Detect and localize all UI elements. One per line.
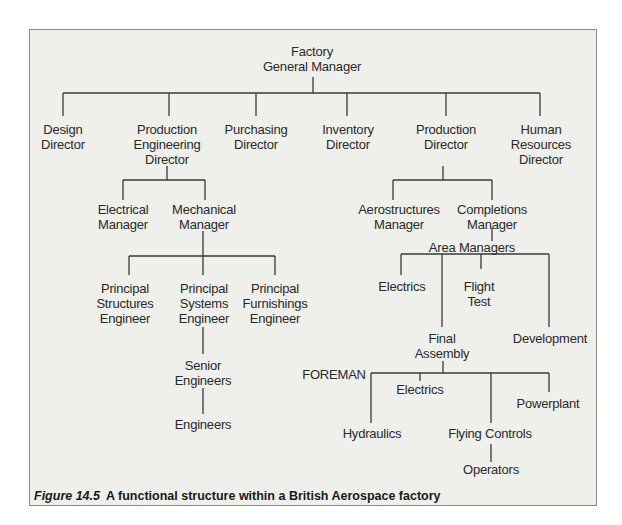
node-inventory-director: Inventory Director <box>322 122 374 152</box>
node-line: Furnishings <box>243 296 308 311</box>
node-line: Director <box>322 137 374 152</box>
node-line: Human <box>511 122 571 137</box>
node-mechanical-manager: Mechanical Manager <box>172 202 236 232</box>
node-principal-systems-engineer: Principal Systems Engineer <box>179 281 229 326</box>
node-hydraulics: Hydraulics <box>343 426 402 441</box>
node-production-engineering-director: Production Engineering Director <box>133 122 200 167</box>
org-chart-connectors <box>0 0 622 525</box>
node-line: Purchasing <box>224 122 287 137</box>
node-final-assembly: Final Assembly <box>415 331 470 361</box>
node-aerostructures-manager: Aerostructures Manager <box>358 202 440 232</box>
node-principal-furnishings-engineer: Principal Furnishings Engineer <box>243 281 308 326</box>
node-line: Director <box>224 137 287 152</box>
node-line: Engineering <box>133 137 200 152</box>
node-line: Flying Controls <box>448 426 532 441</box>
node-development: Development <box>513 331 587 346</box>
figure-number: Figure 14.5 <box>34 489 100 503</box>
node-electrics-area: Electrics <box>378 279 425 294</box>
node-line: Development <box>513 331 587 346</box>
node-line: Flight <box>464 279 495 294</box>
node-line: Engineer <box>179 311 229 326</box>
node-line: Hydraulics <box>343 426 402 441</box>
node-line: Operators <box>463 462 519 477</box>
node-purchasing-director: Purchasing Director <box>224 122 287 152</box>
node-line: Aerostructures <box>358 202 440 217</box>
node-line: Final <box>415 331 470 346</box>
node-line: Powerplant <box>516 396 579 411</box>
node-line: Senior <box>175 358 232 373</box>
node-completions-manager: Completions Manager <box>457 202 527 232</box>
node-engineers: Engineers <box>175 417 232 432</box>
node-line: Principal <box>179 281 229 296</box>
node-line: Mechanical <box>172 202 236 217</box>
node-line: Factory <box>263 44 361 59</box>
node-line: Electrical <box>98 202 149 217</box>
node-line: Manager <box>358 217 440 232</box>
node-line: Production <box>416 122 476 137</box>
node-line: Engineers <box>175 417 232 432</box>
node-line: Design <box>41 122 85 137</box>
figure-title: A functional structure within a British … <box>106 489 441 503</box>
node-line: Manager <box>98 217 149 232</box>
node-line: Resources <box>511 137 571 152</box>
node-line: Director <box>511 152 571 167</box>
figure-caption: Figure 14.5A functional structure within… <box>34 489 441 503</box>
node-electrics-foreman: Electrics <box>396 382 443 397</box>
node-line: Principal <box>243 281 308 296</box>
node-flying-controls: Flying Controls <box>448 426 532 441</box>
node-line: Engineers <box>175 373 232 388</box>
node-line: General Manager <box>263 59 361 74</box>
node-area-managers: Area Managers <box>429 240 515 255</box>
node-line: Principal <box>96 281 153 296</box>
node-line: Electrics <box>378 279 425 294</box>
node-flight-test: Flight Test <box>464 279 495 309</box>
node-line: Structures <box>96 296 153 311</box>
node-senior-engineers: Senior Engineers <box>175 358 232 388</box>
node-factory-general-manager: Factory General Manager <box>263 44 361 74</box>
node-line: Manager <box>457 217 527 232</box>
node-line: Engineer <box>243 311 308 326</box>
node-line: Inventory <box>322 122 374 137</box>
node-operators: Operators <box>463 462 519 477</box>
node-powerplant: Powerplant <box>516 396 579 411</box>
node-line: Area Managers <box>429 240 515 255</box>
node-line: FOREMAN <box>302 367 366 382</box>
node-line: Assembly <box>415 346 470 361</box>
node-human-resources-director: Human Resources Director <box>511 122 571 167</box>
node-line: Completions <box>457 202 527 217</box>
node-line: Director <box>41 137 85 152</box>
node-design-director: Design Director <box>41 122 85 152</box>
node-electrical-manager: Electrical Manager <box>98 202 149 232</box>
node-line: Systems <box>179 296 229 311</box>
node-line: Electrics <box>396 382 443 397</box>
node-line: Director <box>133 152 200 167</box>
node-line: Director <box>416 137 476 152</box>
node-line: Manager <box>172 217 236 232</box>
node-production-director: Production Director <box>416 122 476 152</box>
node-line: Engineer <box>96 311 153 326</box>
foreman-level-label: FOREMAN <box>302 367 366 382</box>
node-principal-structures-engineer: Principal Structures Engineer <box>96 281 153 326</box>
node-line: Production <box>133 122 200 137</box>
node-line: Test <box>464 294 495 309</box>
